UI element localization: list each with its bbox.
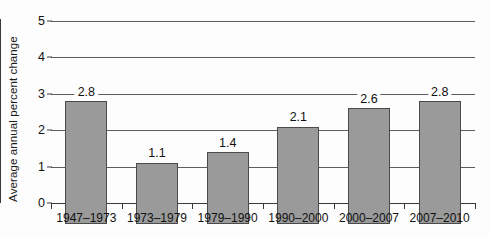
y-tick-mark-5: [47, 21, 52, 22]
bars-group: 2.81.11.42.12.62.8: [51, 21, 475, 203]
y-tick-mark-1: [47, 166, 52, 167]
x-tick-label-1947–1973: 1947–1973: [56, 212, 116, 224]
bar-slot: 2.6: [334, 21, 405, 224]
bar-slot: 2.1: [263, 21, 334, 224]
bar-2000–2007[interactable]: [348, 108, 390, 224]
x-tick-label-1973–1979: 1973–1979: [127, 212, 187, 224]
y-tick-mark-2: [47, 130, 52, 131]
bar-chart-figure: Average annual percent change 2.81.11.42…: [0, 0, 490, 238]
bar-slot: 1.4: [192, 21, 263, 224]
x-tick-label-2007–2010: 2007–2010: [410, 212, 470, 224]
bar-slot: 1.1: [122, 21, 193, 224]
y-tick-mark-3: [47, 93, 52, 94]
bar-value-label: 2.8: [75, 86, 98, 99]
x-tick-mark: [334, 203, 335, 209]
bar-slot: 2.8: [404, 21, 475, 224]
bar-value-label: 2.1: [287, 111, 310, 124]
x-tick-mark: [263, 203, 264, 209]
bar-slot: 2.8: [51, 21, 122, 224]
y-axis-line: [0, 19, 1, 203]
y-tick-label-5: 5: [38, 15, 45, 28]
bar-value-label: 1.1: [145, 147, 168, 160]
x-tick-mark: [475, 203, 476, 209]
bar-value-label: 2.6: [357, 93, 380, 106]
x-tick-label-1979–1990: 1979–1990: [198, 212, 258, 224]
y-tick-label-2: 2: [38, 124, 45, 137]
y-axis-title: Average annual percent change: [0, 0, 26, 238]
x-tick-mark: [51, 203, 52, 209]
x-tick-mark: [192, 203, 193, 209]
x-tick-label-1990–2000: 1990–2000: [268, 212, 328, 224]
y-tick-mark-4: [47, 57, 52, 58]
bar-value-label: 1.4: [216, 137, 239, 150]
y-tick-label-3: 3: [38, 88, 45, 101]
bar-1990–2000[interactable]: [277, 127, 319, 224]
bar-2007–2010[interactable]: [419, 101, 461, 224]
y-tick-label-1: 1: [38, 160, 45, 173]
x-tick-mark: [122, 203, 123, 209]
y-tick-label-4: 4: [38, 51, 45, 64]
plot-area: 2.81.11.42.12.62.8 012345: [51, 21, 475, 203]
y-tick-label-0: 0: [38, 197, 45, 210]
bar-value-label: 2.8: [428, 86, 451, 99]
x-tick-mark: [404, 203, 405, 209]
x-tick-label-2000–2007: 2000–2007: [339, 212, 399, 224]
bar-1947–1973[interactable]: [65, 101, 107, 224]
